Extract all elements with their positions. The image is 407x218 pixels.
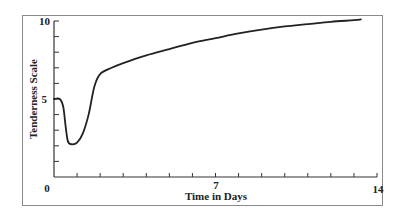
x-tick-0: 0	[44, 182, 50, 194]
x-axis-title: Time in Days	[185, 190, 248, 202]
x-tick-14: 14	[373, 183, 385, 195]
tenderness-line	[54, 19, 361, 144]
tenderness-chart: 10 5 0 7 14 Time in Days Tenderness Scal…	[0, 0, 407, 218]
y-axis-title: Tenderness Scale	[27, 59, 39, 139]
y-tick-5: 5	[42, 93, 48, 105]
y-tick-10: 10	[39, 15, 51, 27]
y-ticks	[54, 21, 59, 161]
